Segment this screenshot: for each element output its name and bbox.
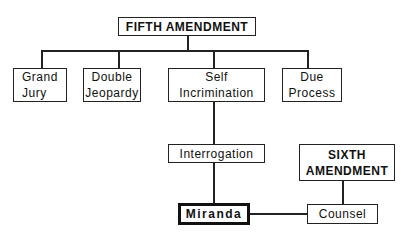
- node-label: Incrimination: [179, 85, 254, 101]
- connector: [213, 101, 215, 144]
- interrogation-node: Interrogation: [168, 144, 265, 163]
- sixth-amendment-node: SIXTHAMENDMENT: [299, 144, 395, 181]
- connector: [213, 162, 215, 204]
- node-label: Interrogation: [180, 146, 254, 162]
- node-label: Jury: [22, 85, 58, 101]
- counsel-node: Counsel: [307, 204, 378, 224]
- node-label: AMENDMENT: [306, 163, 389, 179]
- node-label: Miranda: [186, 206, 243, 222]
- node-label: Double: [85, 69, 138, 85]
- connector: [118, 50, 120, 68]
- connector: [41, 50, 43, 68]
- node-label: Grand: [22, 69, 58, 85]
- node-label: FIFTH AMENDMENT: [126, 19, 248, 35]
- connector: [307, 50, 309, 68]
- double-jeopardy-node: DoubleJeopardy: [83, 68, 141, 102]
- due-process-node: DueProcess: [282, 68, 342, 102]
- node-label: Counsel: [319, 206, 367, 222]
- grand-jury-node: GrandJury: [13, 68, 67, 102]
- node-label: Process: [289, 85, 336, 101]
- node-label: Self: [179, 69, 254, 85]
- node-label: Due: [289, 69, 336, 85]
- connector: [213, 50, 215, 68]
- node-label: SIXTH: [306, 147, 389, 163]
- fifth-amendment-node: FIFTH AMENDMENT: [118, 17, 256, 36]
- miranda-node: Miranda: [178, 203, 250, 225]
- connector: [41, 50, 308, 52]
- connector: [187, 35, 189, 51]
- connector: [249, 213, 307, 215]
- self-incrimination-node: SelfIncrimination: [168, 68, 265, 102]
- node-label: Jeopardy: [85, 85, 138, 101]
- connector: [342, 180, 344, 204]
